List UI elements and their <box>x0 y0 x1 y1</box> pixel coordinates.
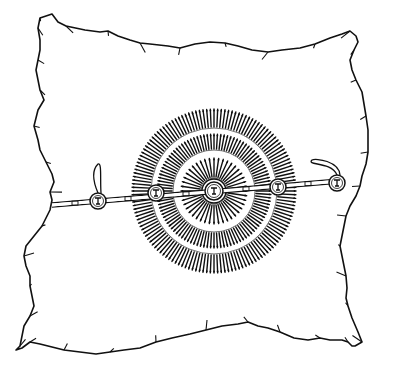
medallion-center <box>205 182 223 200</box>
medallion-far-left <box>90 193 106 209</box>
illustration-canvas <box>0 0 408 380</box>
medallion-right <box>270 179 286 195</box>
hide-illustration <box>0 0 408 380</box>
edge-crack <box>40 18 41 21</box>
medallion-far-right <box>329 175 345 191</box>
medallion-left <box>148 185 164 201</box>
edge-crack <box>108 31 109 36</box>
